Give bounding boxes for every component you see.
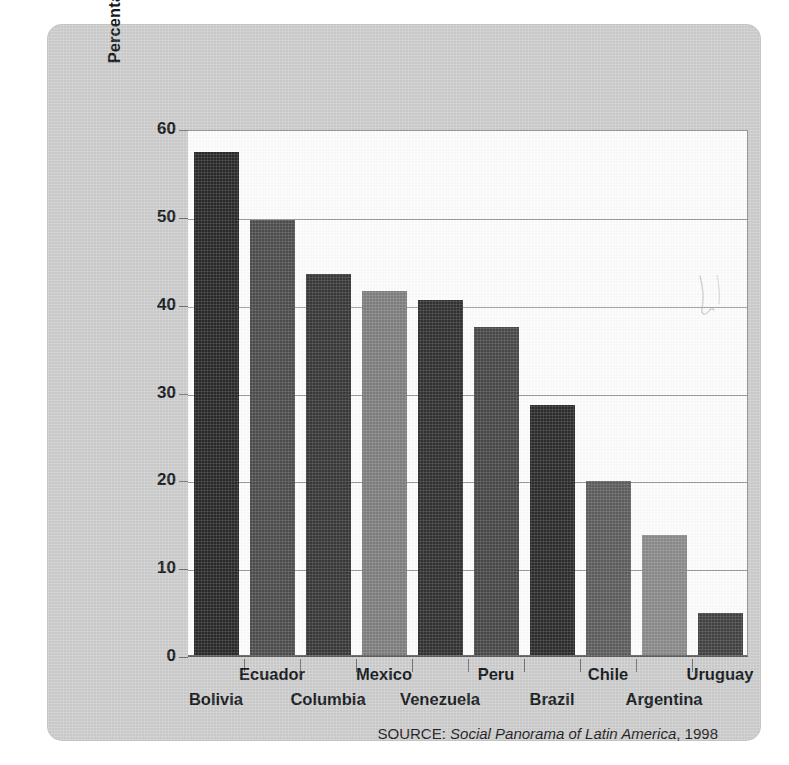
bar-ecuador xyxy=(250,220,295,655)
y-tick-label: 0 xyxy=(136,646,176,666)
plot-area xyxy=(188,130,748,657)
y-tick-mark xyxy=(179,657,188,658)
x-tick-mark xyxy=(524,659,525,672)
source-title: Social Panorama of Latin America xyxy=(450,725,676,742)
bar-mexico xyxy=(362,291,407,656)
y-tick-label: 60 xyxy=(136,119,176,139)
bar-uruguay xyxy=(698,613,743,655)
x-label-ecuador: Ecuador xyxy=(239,665,305,684)
x-tick-mark xyxy=(636,659,637,672)
x-tick-mark xyxy=(412,659,413,672)
y-tick-mark xyxy=(179,569,188,570)
bar-venezuela xyxy=(418,300,463,655)
y-tick-mark xyxy=(179,394,188,395)
x-label-venezuela: Venezuela xyxy=(400,690,480,709)
bar-brazil xyxy=(530,405,575,655)
x-label-chile: Chile xyxy=(588,665,628,684)
bar-argentina xyxy=(642,535,687,655)
x-label-peru: Peru xyxy=(478,665,515,684)
source-note: SOURCE: Social Panorama of Latin America… xyxy=(378,725,718,742)
x-label-uruguay: Uruguay xyxy=(687,665,754,684)
x-label-brazil: Brazil xyxy=(530,690,575,709)
y-tick-mark xyxy=(179,481,188,482)
source-prefix: SOURCE: xyxy=(378,725,446,742)
bar-columbia xyxy=(306,274,351,655)
bar-chile xyxy=(586,481,631,655)
x-tick-mark xyxy=(580,659,581,672)
y-tick-label: 30 xyxy=(136,383,176,403)
bar-bolivia xyxy=(194,152,239,655)
y-tick-label: 20 xyxy=(136,470,176,490)
x-label-columbia: Columbia xyxy=(290,690,365,709)
y-tick-mark xyxy=(179,130,188,131)
x-label-mexico: Mexico xyxy=(356,665,412,684)
source-year: , 1998 xyxy=(676,725,718,742)
bars-layer xyxy=(188,131,747,655)
figure-panel: Percentage of Population Living in Pover… xyxy=(48,25,760,740)
bar-peru xyxy=(474,327,519,655)
x-tick-mark xyxy=(468,659,469,672)
y-tick-mark xyxy=(179,218,188,219)
y-tick-label: 40 xyxy=(136,295,176,315)
y-tick-label: 10 xyxy=(136,558,176,578)
x-label-argentina: Argentina xyxy=(625,690,702,709)
x-label-bolivia: Bolivia xyxy=(189,690,243,709)
y-tick-mark xyxy=(179,306,188,307)
y-axis-title: Percentage of Population Living in Pover… xyxy=(100,0,128,157)
y-tick-label: 50 xyxy=(136,207,176,227)
